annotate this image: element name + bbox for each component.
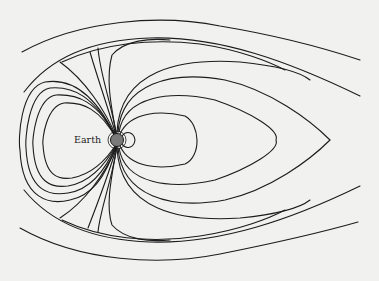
- dayside-loop-1: [19, 81, 117, 201]
- magnetopause-bottom: [24, 186, 360, 242]
- field-lines: [0, 0, 379, 281]
- earth-label: Earth: [74, 134, 101, 145]
- nightside-loop-2: [120, 113, 197, 167]
- earth-globe: [111, 134, 124, 147]
- nightside-loop-5: [117, 61, 310, 132]
- solar-wind-line-bottom-outer: [20, 222, 358, 260]
- magnetosphere-diagram: Earth: [0, 0, 379, 281]
- nightside-loop-3: [119, 96, 276, 185]
- nightside-loop-6: [117, 148, 310, 219]
- nightside-loop-4: [118, 77, 330, 203]
- tail-line-bottom: [62, 210, 285, 239]
- cusp-line-2: [90, 52, 117, 138]
